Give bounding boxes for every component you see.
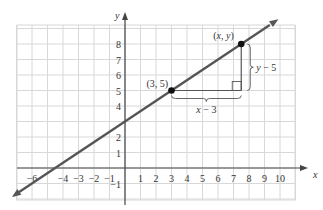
horizontal-brace-icon: [172, 96, 242, 102]
x-tick-label: −2: [89, 173, 100, 184]
coordinate-plane: xy −6−4−3−2−112345678910−11245678 (3, 5)…: [0, 0, 323, 210]
y-tick-label: 7: [116, 55, 121, 66]
x-tick-label: 8: [247, 173, 252, 184]
linear-graph-line: [12, 19, 279, 197]
x-tick-label: 6: [216, 173, 221, 184]
point-marker: [238, 41, 245, 48]
y-tick-label: 4: [116, 101, 121, 112]
x-tick-label: 7: [231, 173, 236, 184]
line-arrowhead-icon: [269, 19, 278, 27]
y-tick-label: 6: [116, 70, 121, 81]
x-tick-label: 1: [138, 173, 143, 184]
x-tick-label: 3: [169, 173, 174, 184]
x-tick-label: −4: [58, 173, 69, 184]
x-tick-label: −3: [73, 173, 84, 184]
point-marker: [168, 87, 175, 94]
point-label-x-y: (x, y): [213, 30, 234, 42]
y-tick-label: 2: [116, 132, 121, 143]
points: (3, 5)(x, y): [147, 30, 245, 94]
y-axis-label: y: [114, 10, 120, 21]
y-tick-label: −1: [110, 179, 121, 190]
point-label-3-5: (3, 5): [147, 78, 169, 90]
y-tick-label: 5: [116, 86, 121, 97]
y-axis-arrow-icon: [122, 12, 128, 20]
run-label: x − 3: [195, 104, 216, 115]
y-tick-label: 1: [116, 148, 121, 159]
x-tick-label: 5: [200, 173, 205, 184]
x-tick-label: 2: [154, 173, 159, 184]
vertical-brace-icon: [247, 44, 253, 91]
x-axis-label: x: [312, 169, 318, 180]
rise-label: y − 5: [255, 62, 276, 73]
x-tick-label: 9: [262, 173, 267, 184]
x-tick-label: 10: [275, 173, 285, 184]
x-tick-label: 4: [185, 173, 190, 184]
x-axis-arrow-icon: [300, 165, 308, 171]
y-tick-label: 8: [116, 39, 121, 50]
